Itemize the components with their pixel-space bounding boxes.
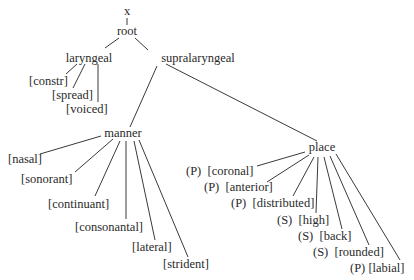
place-feature-distributed: (P) [distributed] xyxy=(231,196,314,210)
place-feature-coronal: (P) [coronal] xyxy=(186,164,253,178)
tree-edges xyxy=(0,0,414,280)
feature-constr: [constr] xyxy=(29,74,68,88)
marker: (S) xyxy=(298,229,313,243)
marker: (P) xyxy=(186,164,201,178)
node-supralaryngeal: supralaryngeal xyxy=(161,51,235,65)
feature-continuant: [continuant] xyxy=(48,197,109,211)
marker: (S) xyxy=(277,213,292,227)
label: [back] xyxy=(320,229,352,243)
marker: (S) xyxy=(313,245,328,259)
feature-strident: [strident] xyxy=(163,257,209,271)
label: [high] xyxy=(299,213,330,227)
feature-voiced: [voiced] xyxy=(66,102,108,116)
place-feature-rounded: (S) [rounded] xyxy=(313,245,384,259)
place-feature-anterior: (P) [anterior] xyxy=(204,180,273,194)
node-manner: manner xyxy=(104,126,141,140)
feature-sonorant: [sonorant] xyxy=(21,172,72,186)
feature-consonantal: [consonantal] xyxy=(75,220,143,234)
marker: (P) xyxy=(204,180,219,194)
place-feature-labial: (P) [labial] xyxy=(350,261,405,275)
place-feature-back: (S) [back] xyxy=(298,229,351,243)
feature-lateral: [lateral] xyxy=(132,240,172,254)
label: [labial] xyxy=(368,261,404,275)
node-x: x xyxy=(124,4,130,18)
label: [distributed] xyxy=(253,196,315,210)
place-feature-high: (S) [high] xyxy=(277,213,329,227)
label: [coronal] xyxy=(208,164,254,178)
feature-spread: [spread] xyxy=(52,88,93,102)
label: [anterior] xyxy=(226,180,273,194)
node-root: root xyxy=(117,24,137,38)
label: [rounded] xyxy=(335,245,384,259)
marker: (P) xyxy=(231,196,246,210)
marker: (P) xyxy=(350,261,365,275)
feature-nasal: [nasal] xyxy=(8,152,42,166)
node-place: place xyxy=(309,140,335,154)
node-laryngeal: laryngeal xyxy=(66,51,113,65)
